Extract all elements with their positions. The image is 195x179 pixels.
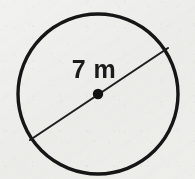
circle-diagram-figure: 7 m [0,0,195,179]
diagram-canvas: 7 m [0,0,195,179]
diameter-measure-label: 7 m [72,55,117,83]
center-point-dot [93,89,103,99]
